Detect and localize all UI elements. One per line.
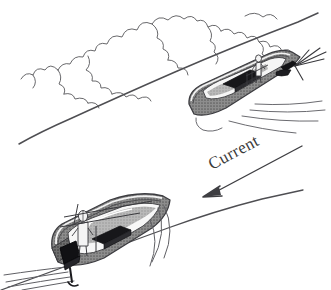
background bbox=[0, 0, 331, 290]
illustration-canvas: Current bbox=[0, 0, 331, 290]
